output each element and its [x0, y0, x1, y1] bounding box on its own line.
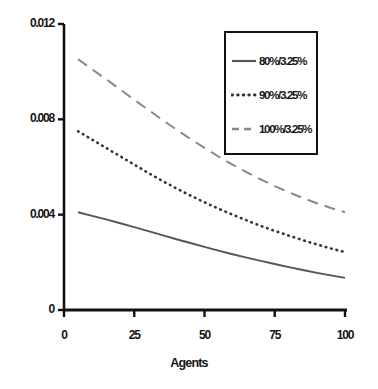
series-line: [78, 212, 345, 278]
legend-label: 100%/3.25%: [259, 123, 311, 135]
legend-line-swatch: [231, 123, 257, 135]
y-axis-tick-label: 0.012: [0, 16, 54, 30]
x-axis-tick-label: 50: [180, 328, 230, 342]
legend: 80%/3.25%90%/3.25%100%/3.25%: [224, 31, 318, 155]
legend-line-swatch: [231, 89, 257, 101]
x-axis-tick-label: 100: [320, 328, 370, 342]
legend-entry: 80%/3.25%: [226, 51, 320, 71]
chart-figure: 00.0040.0080.0120255075100 Agents 80%/3.…: [0, 0, 378, 389]
y-axis-tick-label: 0.004: [0, 207, 54, 221]
y-axis-tick-label: 0.008: [0, 111, 54, 125]
x-axis-tick-label: 75: [250, 328, 300, 342]
legend-label: 90%/3.25%: [259, 89, 306, 101]
legend-entry: 100%/3.25%: [226, 119, 320, 139]
x-axis-tick-label: 25: [109, 328, 159, 342]
legend-label: 80%/3.25%: [259, 55, 306, 67]
x-axis-tick-label: 0: [39, 328, 89, 342]
x-axis-title: Agents: [0, 356, 378, 370]
legend-entry: 90%/3.25%: [226, 85, 320, 105]
y-axis-tick-label: 0: [0, 302, 54, 316]
legend-line-swatch: [231, 55, 257, 67]
